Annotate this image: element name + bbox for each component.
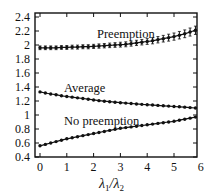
data-point	[119, 43, 122, 46]
data-point	[76, 96, 79, 99]
y-tick-label: 2.4	[15, 10, 30, 24]
data-point	[156, 38, 159, 41]
data-point	[87, 133, 90, 136]
data-point	[108, 129, 111, 132]
x-axis-label: λ1/λ2	[98, 176, 124, 193]
data-point	[97, 131, 100, 134]
series-label-no-preemption: No preemption	[64, 114, 140, 128]
data-point	[70, 136, 73, 139]
data-point	[60, 46, 63, 49]
data-point	[167, 104, 170, 107]
series-label-average: Average	[64, 81, 106, 95]
y-tick-label: 2	[24, 38, 30, 52]
data-point	[172, 35, 175, 38]
data-point	[183, 118, 186, 121]
data-point	[38, 144, 41, 147]
data-point	[103, 44, 106, 47]
data-point	[194, 106, 197, 109]
data-point	[70, 45, 73, 48]
data-point	[140, 103, 143, 106]
data-point	[162, 121, 165, 124]
data-point	[92, 45, 95, 48]
data-point	[38, 90, 41, 93]
data-point	[178, 34, 181, 37]
data-point	[49, 46, 52, 49]
data-point	[183, 32, 186, 35]
data-point	[54, 140, 57, 143]
data-point	[97, 44, 100, 47]
data-point	[38, 46, 41, 49]
y-tick-label: 1.8	[15, 52, 30, 66]
data-point	[124, 43, 127, 46]
y-tick-label: 2.2	[15, 24, 30, 38]
data-point	[162, 104, 165, 107]
data-point	[87, 98, 90, 101]
data-point	[44, 46, 47, 49]
data-point	[49, 92, 52, 95]
data-point	[146, 103, 149, 106]
line-chart: 0.40.60.811.21.41.61.822.22.4 0123456 Pr…	[0, 0, 215, 196]
data-point	[113, 43, 116, 46]
x-tick-label: 2	[91, 160, 97, 174]
data-point	[76, 135, 79, 138]
data-point	[178, 119, 181, 122]
data-point	[70, 95, 73, 98]
data-point	[81, 134, 84, 137]
data-point	[188, 106, 191, 109]
x-tick-label: 6	[198, 160, 204, 174]
data-point	[87, 45, 90, 48]
data-point	[146, 123, 149, 126]
data-point	[92, 132, 95, 135]
data-point	[65, 95, 68, 98]
data-point	[129, 42, 132, 45]
data-point	[124, 101, 127, 104]
y-tick-label: 1.2	[15, 94, 30, 108]
data-point	[119, 101, 122, 104]
data-point	[151, 122, 154, 125]
data-point	[194, 29, 197, 32]
data-point	[81, 97, 84, 100]
data-point	[188, 30, 191, 33]
data-point	[135, 41, 138, 44]
x-tick-label: 5	[171, 160, 177, 174]
data-point	[60, 139, 63, 142]
y-tick-label: 1	[24, 108, 30, 122]
data-point	[188, 116, 191, 119]
data-point	[103, 100, 106, 103]
data-point	[140, 41, 143, 44]
y-tick-label: 1.6	[15, 66, 30, 80]
y-tick-label: 0.8	[15, 122, 30, 136]
data-point	[129, 102, 132, 105]
data-point	[76, 45, 79, 48]
data-point	[172, 105, 175, 108]
data-point	[103, 130, 106, 133]
data-point	[65, 137, 68, 140]
data-point	[140, 124, 143, 127]
series-layer	[38, 26, 197, 147]
data-point	[156, 104, 159, 107]
data-point	[65, 46, 68, 49]
data-point	[49, 141, 52, 144]
series-label-preemption: Preemption	[97, 27, 155, 41]
data-point	[151, 103, 154, 106]
data-point	[113, 128, 116, 131]
data-point	[167, 120, 170, 123]
data-point	[178, 105, 181, 108]
data-point	[54, 93, 57, 96]
y-tick-label: 0.6	[15, 136, 30, 150]
data-point	[162, 37, 165, 40]
data-point	[194, 115, 197, 118]
data-point	[108, 100, 111, 103]
series-average	[38, 90, 197, 110]
data-point	[81, 45, 84, 48]
data-point	[92, 98, 95, 101]
data-point	[183, 105, 186, 108]
data-point	[167, 36, 170, 39]
data-point	[135, 102, 138, 105]
x-tick-label: 1	[64, 160, 70, 174]
x-tick-label: 0	[37, 160, 43, 174]
data-point	[172, 120, 175, 123]
data-point	[44, 143, 47, 146]
x-tick-label: 4	[144, 160, 150, 174]
data-point	[60, 94, 63, 97]
